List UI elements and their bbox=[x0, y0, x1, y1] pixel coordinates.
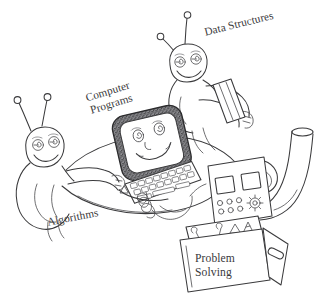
left-alien-antenna-right bbox=[42, 94, 51, 126]
right-alien-antenna-right bbox=[184, 12, 191, 44]
right-alien-antenna-left bbox=[157, 33, 175, 52]
machine-display-right bbox=[241, 172, 261, 190]
label-problem-solving: Problem Solving bbox=[195, 252, 235, 279]
illustration-canvas: Data Structures Computer Programs Algori… bbox=[0, 0, 326, 298]
data-card bbox=[213, 79, 245, 123]
left-alien-antenna-left bbox=[14, 97, 31, 131]
machine-display-left bbox=[215, 176, 235, 194]
smiling-computer bbox=[110, 103, 203, 205]
left-alien-arm bbox=[66, 168, 119, 182]
line-art-drawing bbox=[0, 0, 326, 298]
